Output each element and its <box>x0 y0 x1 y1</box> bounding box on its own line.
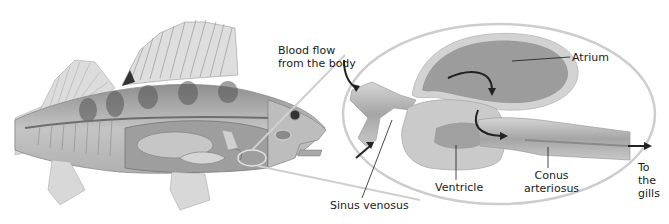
label-atrium: Atrium <box>572 51 609 64</box>
label-gills-line2: the <box>638 174 660 187</box>
label-sinus-venosus: Sinus venosus <box>330 199 409 212</box>
label-gills-line1: To <box>638 161 660 174</box>
label-blood-flow-line2: from the body <box>278 57 356 70</box>
label-conus-line2: arteriosus <box>524 182 579 195</box>
label-to-the-gills: To the gills <box>638 161 660 200</box>
fish-heart-diagram: Blood flow from the body Atrium Sinus ve… <box>0 0 669 224</box>
spiny-dorsal-fin <box>122 22 238 85</box>
label-conus-line1: Conus <box>524 169 579 182</box>
label-gills-line3: gills <box>638 187 660 200</box>
lower-jaw <box>298 150 322 156</box>
fish-eye <box>290 110 300 120</box>
label-conus-arteriosus: Conus arteriosus <box>524 169 579 195</box>
label-blood-flow: Blood flow from the body <box>278 44 356 70</box>
pelvic-fin <box>170 172 210 210</box>
gill-oval <box>275 130 291 140</box>
label-blood-flow-line1: Blood flow <box>278 44 356 57</box>
label-ventricle: Ventricle <box>435 181 483 194</box>
